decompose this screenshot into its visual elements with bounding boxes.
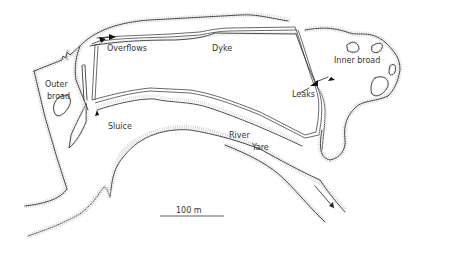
outer-broad	[34, 46, 88, 189]
dyke-label: Dyke	[212, 44, 232, 53]
overflows-label: Overflows	[107, 44, 147, 53]
river-label-line1: River	[229, 131, 250, 140]
leaks-label: Leaks	[292, 90, 315, 99]
broad-site-map	[0, 0, 450, 254]
inner-broad	[305, 28, 400, 160]
left-channel	[75, 46, 88, 110]
scale-bar-label: 100 m	[176, 206, 202, 215]
sluice-marker	[95, 110, 99, 116]
outer-broad-label-line1: Outer	[45, 80, 68, 89]
inner-broad-label: Inner broad	[334, 56, 380, 65]
outer-broad-label-line2: broad	[47, 92, 70, 101]
sluice-label: Sluice	[108, 122, 132, 131]
river-label-line2: Yare	[252, 143, 269, 152]
